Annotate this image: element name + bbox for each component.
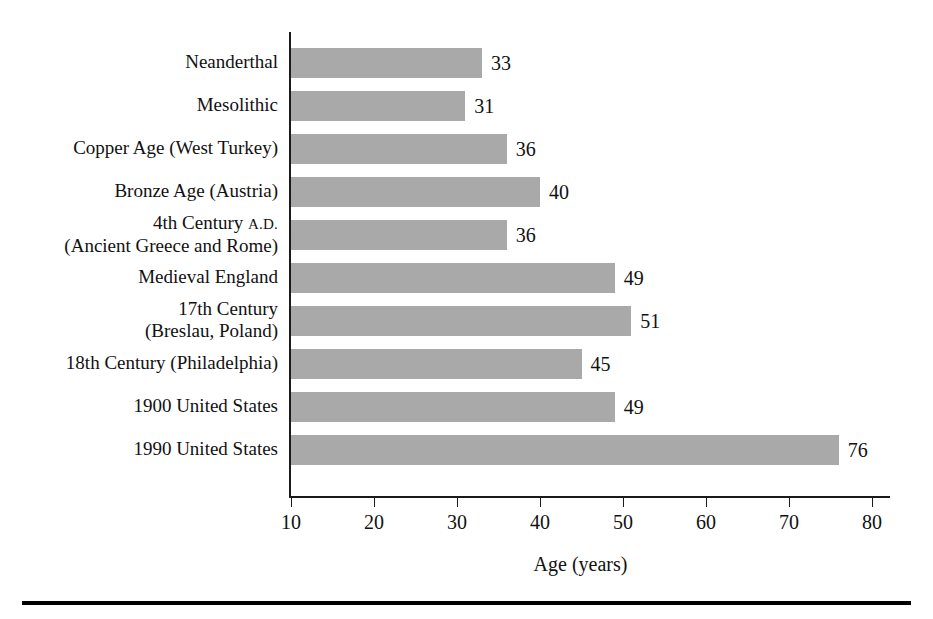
category-label-line1: Bronze Age (Austria) <box>114 180 278 201</box>
bar-value-label: 31 <box>474 91 494 121</box>
category-label: 1900 United States <box>0 395 278 417</box>
category-label-line2: (Ancient Greece and Rome) <box>0 235 278 257</box>
x-axis-title: Age (years) <box>0 553 933 576</box>
category-label-line1: 4th Century <box>153 212 248 233</box>
x-tick-label-80: 80 <box>842 510 902 534</box>
bar <box>291 220 507 250</box>
x-axis-title-text: Age (years) <box>534 553 628 576</box>
bar-value-label: 40 <box>549 177 569 207</box>
bar <box>291 263 615 293</box>
category-label-line1: 1990 United States <box>133 438 278 459</box>
bar-value-label: 51 <box>640 306 660 336</box>
category-label: Mesolithic <box>0 94 278 116</box>
bar-value-label: 33 <box>491 48 511 78</box>
category-label-line1: Medieval England <box>138 266 278 287</box>
x-axis-line <box>289 496 890 498</box>
bar <box>291 177 540 207</box>
bar-value-label: 36 <box>516 134 536 164</box>
x-tick-label-50: 50 <box>593 510 653 534</box>
category-label: 4th Century A.D.(Ancient Greece and Rome… <box>0 212 278 257</box>
x-tick-50 <box>623 498 624 507</box>
x-tick-label-70: 70 <box>759 510 819 534</box>
category-label: Bronze Age (Austria) <box>0 180 278 202</box>
category-label: Copper Age (West Turkey) <box>0 137 278 159</box>
bar-value-label: 49 <box>624 263 644 293</box>
x-tick-20 <box>374 498 375 507</box>
bar <box>291 435 839 465</box>
bar <box>291 48 482 78</box>
category-label: 17th Century(Breslau, Poland) <box>0 298 278 342</box>
x-tick-40 <box>540 498 541 507</box>
bar <box>291 306 631 336</box>
x-tick-label-40: 40 <box>510 510 570 534</box>
x-tick-60 <box>706 498 707 507</box>
bar-chart-figure: 1020304050607080 33Neanderthal31Mesolith… <box>0 0 933 619</box>
bar-value-label: 36 <box>516 220 536 250</box>
category-label: 18th Century (Philadelphia) <box>0 352 278 374</box>
category-label-line1: 1900 United States <box>133 395 278 416</box>
category-label-smallcaps: A.D. <box>248 216 278 232</box>
x-tick-label-20: 20 <box>344 510 404 534</box>
x-tick-30 <box>457 498 458 507</box>
bar <box>291 349 582 379</box>
category-label: 1990 United States <box>0 438 278 460</box>
x-tick-80 <box>872 498 873 507</box>
category-label: Neanderthal <box>0 51 278 73</box>
category-label-line1: 17th Century <box>178 298 278 319</box>
category-label-line1: 18th Century (Philadelphia) <box>66 352 278 373</box>
x-tick-10 <box>291 498 292 507</box>
bottom-divider-rule <box>22 601 911 605</box>
category-label-line1: Copper Age (West Turkey) <box>73 137 278 158</box>
bar <box>291 134 507 164</box>
x-tick-label-60: 60 <box>676 510 736 534</box>
x-tick-70 <box>789 498 790 507</box>
x-tick-label-30: 30 <box>427 510 487 534</box>
bar <box>291 91 465 121</box>
bar <box>291 392 615 422</box>
category-label-line1: Neanderthal <box>185 51 278 72</box>
bar-value-label: 76 <box>848 435 868 465</box>
category-label: Medieval England <box>0 266 278 288</box>
category-label-line1: Mesolithic <box>197 94 278 115</box>
category-label-line2: (Breslau, Poland) <box>0 320 278 342</box>
x-tick-label-10: 10 <box>261 510 321 534</box>
bar-value-label: 49 <box>624 392 644 422</box>
bar-value-label: 45 <box>591 349 611 379</box>
